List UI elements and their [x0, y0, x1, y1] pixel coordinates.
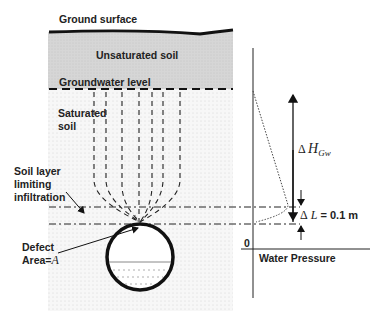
defect-label-1: Defect — [22, 241, 54, 253]
zero-label: 0 — [244, 237, 250, 249]
unsaturated-soil-label: Unsaturated soil — [96, 49, 178, 61]
defect-area-symbol: A — [51, 253, 58, 267]
soil-layer-label-3: infiltration — [14, 191, 65, 203]
soil-layer-label-1: Soil layer — [14, 165, 61, 177]
gw-subscript: Gw — [318, 148, 331, 158]
h-variable: H — [308, 141, 318, 156]
delta-l-value: = 0.1 m — [317, 209, 358, 221]
ground-surface-label: Ground surface — [59, 13, 137, 25]
pressure-profile — [253, 91, 288, 222]
soil-layer-label-2: limiting — [14, 178, 51, 190]
pipe — [107, 224, 173, 290]
defect-label-2: Area=A — [22, 254, 59, 266]
delta-h-gw-label: Δ HGw — [298, 143, 331, 159]
groundwater-level-label: Groundwater level — [59, 76, 151, 88]
defect-area-text: Area= — [22, 254, 51, 266]
delta-symbol: Δ — [298, 142, 305, 156]
delta-symbol: Δ — [300, 208, 308, 222]
delta-l-label: Δ L = 0.1 m — [300, 209, 358, 221]
saturated-soil-label-1: Saturated — [58, 107, 106, 119]
saturated-soil-label-2: soil — [58, 120, 76, 132]
water-pressure-label: Water Pressure — [259, 252, 336, 264]
